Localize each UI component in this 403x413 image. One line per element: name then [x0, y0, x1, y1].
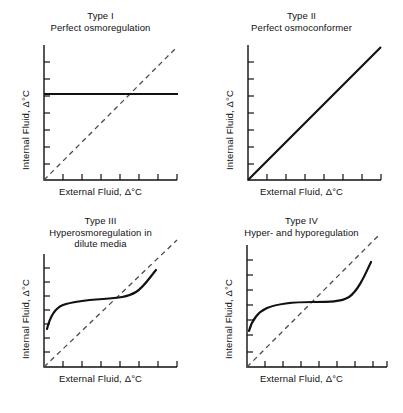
- x-axis-label-type-3: External Fluid, Δ°C: [0, 373, 201, 384]
- chart-panel-type-3: Type III Hyperosmoregulation in dilute m…: [0, 207, 201, 413]
- y-axis-ticks: [44, 268, 50, 352]
- axis-lines: [247, 245, 387, 367]
- y-axis-label-type-4: Internal Fluid, Δ°C: [223, 279, 234, 359]
- x-axis-label-type-1: External Fluid, Δ°C: [0, 186, 201, 197]
- isosmotic-reference-line: [44, 240, 177, 367]
- chart-panel-type-2: Type II Perfect osmoconformer: [201, 0, 402, 206]
- chart-panel-type-4: Type IV Hyper- and hyporegulation: [201, 207, 402, 413]
- y-axis-label-type-2: Internal Fluid, Δ°C: [224, 90, 235, 170]
- x-axis-ticks: [267, 174, 381, 180]
- response-curve-type-2: [248, 47, 381, 180]
- y-axis-ticks: [247, 260, 253, 352]
- x-axis-ticks: [63, 174, 177, 180]
- isosmotic-reference-line: [44, 47, 177, 180]
- x-axis-ticks: [265, 361, 387, 367]
- y-axis-label-type-3: Internal Fluid, Δ°C: [20, 279, 31, 359]
- axis-lines: [44, 254, 177, 367]
- x-axis-label-type-4: External Fluid, Δ°C: [201, 373, 402, 384]
- x-axis-ticks: [63, 361, 177, 367]
- chart-panel-type-1: Type I Perfect osmoregulation: [0, 0, 201, 206]
- response-curve-type-4: [249, 262, 371, 331]
- osmoregulation-figure: Type I Perfect osmoregulation: [0, 0, 403, 413]
- x-axis-label-type-2: External Fluid, Δ°C: [201, 186, 402, 197]
- y-axis-ticks: [248, 62, 254, 164]
- response-curve-type-3: [47, 270, 156, 329]
- y-axis-ticks: [44, 62, 50, 164]
- y-axis-label-type-1: Internal Fluid, Δ°C: [20, 90, 31, 170]
